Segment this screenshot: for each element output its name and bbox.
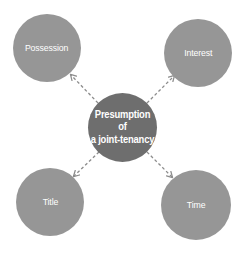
connector-center-to-title	[74, 152, 99, 176]
node-center-label-line-1: Presumption of	[95, 109, 150, 133]
node-time-label: Time	[187, 200, 206, 211]
node-title-label: Title	[42, 197, 58, 208]
node-interest[interactable]: Interest	[164, 19, 232, 87]
connector-center-to-interest	[147, 76, 174, 103]
node-interest-label: Interest	[184, 48, 212, 59]
node-possession-label: Possession	[25, 43, 68, 54]
node-center-label: Presumption of a joint-tenancy	[90, 109, 155, 147]
joint-tenancy-diagram: Possession Interest Title Time Presumpti…	[0, 0, 245, 255]
node-time[interactable]: Time	[161, 170, 231, 240]
node-title[interactable]: Title	[16, 168, 84, 236]
connector-center-to-possession	[71, 75, 98, 103]
connector-center-to-time	[147, 152, 172, 177]
node-center-presumption[interactable]: Presumption of a joint-tenancy	[88, 93, 157, 162]
node-center-label-line-2: a joint-tenancy	[91, 134, 155, 145]
node-possession[interactable]: Possession	[13, 14, 81, 82]
